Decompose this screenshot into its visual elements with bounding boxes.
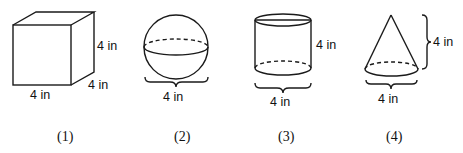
geometric-solids-diagram: 4 in 4 in 4 in (1) 4 in (2) 4 in 4 in (3… <box>0 0 463 153</box>
sphere-figure: 4 in (2) <box>144 15 208 145</box>
cylinder-diameter-brace <box>255 83 311 93</box>
cylinder-bottom-back <box>255 61 311 68</box>
caption-4: (4) <box>386 129 403 145</box>
cone-right-slant <box>391 15 418 69</box>
cylinder-height-label: 4 in <box>316 38 336 52</box>
cone-diameter-brace <box>366 80 417 89</box>
sphere-diameter-label: 4 in <box>163 90 183 104</box>
cube-height-label: 4 in <box>97 39 117 53</box>
sphere-outline <box>144 15 208 79</box>
cube-front-face <box>13 25 71 85</box>
caption-3: (3) <box>278 129 295 145</box>
cone-base-front <box>365 69 418 76</box>
cube-width-label: 4 in <box>30 88 50 102</box>
caption-1: (1) <box>57 129 74 145</box>
cube-depth-label: 4 in <box>88 78 108 92</box>
cube-top-face <box>13 12 94 25</box>
cylinder-diameter-label: 4 in <box>270 95 290 109</box>
cylinder-bottom-front <box>255 68 311 75</box>
cylinder-figure: 4 in 4 in (3) <box>255 14 336 145</box>
cone-height-brace <box>422 15 431 69</box>
cone-diameter-label: 4 in <box>378 92 398 106</box>
caption-2: (2) <box>174 129 191 145</box>
cone-base-back <box>365 62 418 69</box>
sphere-equator-back <box>144 39 208 47</box>
cube-figure: 4 in 4 in 4 in (1) <box>13 12 117 145</box>
cone-left-slant <box>365 15 391 69</box>
sphere-equator-front <box>144 47 208 55</box>
cone-height-label: 4 in <box>433 35 453 49</box>
cone-figure: 4 in 4 in (4) <box>365 15 453 145</box>
